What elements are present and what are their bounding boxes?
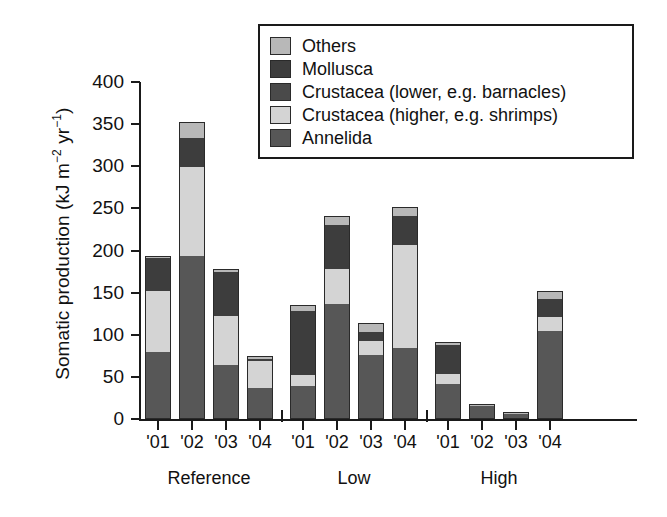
bar-stack [290, 305, 316, 419]
bar-stack [358, 323, 384, 419]
group-separator [281, 410, 283, 422]
y-tick-label: 150 [64, 282, 124, 304]
bar-segment [145, 352, 171, 419]
y-tick-label: 200 [64, 240, 124, 262]
x-tick-mark [404, 421, 406, 430]
bar-segment [469, 406, 495, 419]
bar-stack [469, 404, 495, 419]
y-tick-mark [131, 376, 140, 378]
x-tick-mark [515, 421, 517, 430]
bar-segment [537, 331, 563, 419]
x-tick-mark [302, 421, 304, 430]
bar-segment [324, 304, 350, 419]
bar-segment [392, 207, 418, 216]
bar-stack [179, 122, 205, 419]
group-separator [426, 410, 428, 422]
x-tick-label-4: '04 [238, 432, 282, 453]
bar-segment [290, 386, 316, 419]
y-tick-mark [131, 207, 140, 209]
bar-segment [358, 341, 384, 355]
legend-label: Annelida [302, 129, 372, 147]
bar-segment [435, 374, 461, 385]
y-axis-title-exponent-1: −2 [50, 149, 64, 163]
y-tick-mark [131, 292, 140, 294]
bar-segment [213, 272, 239, 316]
bar-segment [179, 138, 205, 167]
legend-swatch-icon [270, 129, 291, 147]
y-tick-mark [131, 334, 140, 336]
legend-swatch-icon [270, 83, 291, 101]
bar-segment [392, 348, 418, 419]
x-tick-mark [336, 421, 338, 430]
bar-stack [392, 207, 418, 419]
y-tick-mark [131, 81, 140, 83]
legend-item: Annelida [270, 126, 622, 149]
legend-item: Others [270, 34, 622, 57]
bar-segment [537, 317, 563, 331]
x-tick-mark [225, 421, 227, 430]
legend-item: Crustacea (higher, e.g. shrimps) [270, 103, 622, 126]
bar-segment [358, 355, 384, 419]
legend-label: Crustacea (higher, e.g. shrimps) [302, 106, 558, 124]
x-tick-mark [481, 421, 483, 430]
x-tick-label-12: '04 [528, 432, 572, 453]
bar-segment [392, 245, 418, 348]
bar-segment [435, 384, 461, 419]
legend-label: Mollusca [302, 60, 373, 78]
bar-segment [213, 365, 239, 419]
legend-item: Crustacea (lower, e.g. barnacles) [270, 80, 622, 103]
legend-item: Mollusca [270, 57, 622, 80]
y-tick-mark [131, 250, 140, 252]
bar-segment [145, 291, 171, 353]
bar-segment [179, 256, 205, 419]
bar-segment [213, 316, 239, 365]
y-tick-label: 400 [64, 71, 124, 93]
y-tick-mark [131, 123, 140, 125]
bar-segment [324, 225, 350, 269]
x-tick-mark [447, 421, 449, 430]
y-tick-label: 50 [64, 366, 124, 388]
bar-segment [392, 216, 418, 245]
bar-segment [247, 388, 273, 419]
bar-stack [247, 356, 273, 419]
bar-segment [537, 291, 563, 299]
x-axis-line [139, 419, 637, 421]
bar-segment [537, 299, 563, 318]
bar-stack [213, 269, 239, 419]
somatic-production-stacked-bar-chart: Somatic production (kJ m−2 yr−1) 0501001… [0, 0, 667, 517]
bar-stack [324, 216, 350, 419]
y-tick-label: 350 [64, 113, 124, 135]
legend-swatch-icon [270, 60, 291, 78]
bar-segment [145, 258, 171, 291]
bar-segment [179, 167, 205, 256]
legend-label: Crustacea (lower, e.g. barnacles) [302, 83, 566, 101]
legend: OthersMolluscaCrustacea (lower, e.g. bar… [258, 24, 634, 159]
legend-swatch-icon [270, 106, 291, 124]
y-axis-title-prefix: Somatic production (kJ m [52, 163, 73, 380]
bar-stack [435, 342, 461, 419]
bar-segment [247, 361, 273, 388]
group-label-high: High [399, 468, 599, 489]
bar-segment [324, 216, 350, 225]
bar-stack [145, 256, 171, 419]
y-tick-mark [131, 418, 140, 420]
bar-segment [503, 414, 529, 419]
bar-segment [179, 122, 205, 138]
legend-label: Others [302, 37, 356, 55]
x-tick-mark [157, 421, 159, 430]
y-tick-label: 0 [64, 408, 124, 430]
y-tick-label: 250 [64, 197, 124, 219]
x-tick-mark [191, 421, 193, 430]
y-tick-label: 100 [64, 324, 124, 346]
bar-stack [503, 412, 529, 419]
y-tick-label: 300 [64, 155, 124, 177]
x-tick-mark [259, 421, 261, 430]
y-tick-mark [131, 165, 140, 167]
bar-stack [537, 291, 563, 419]
bar-segment [324, 269, 350, 304]
bar-segment [358, 332, 384, 340]
x-tick-label-8: '04 [383, 432, 427, 453]
y-axis-title-exponent-2: −1 [50, 114, 64, 128]
x-tick-mark [370, 421, 372, 430]
bar-segment [290, 311, 316, 375]
